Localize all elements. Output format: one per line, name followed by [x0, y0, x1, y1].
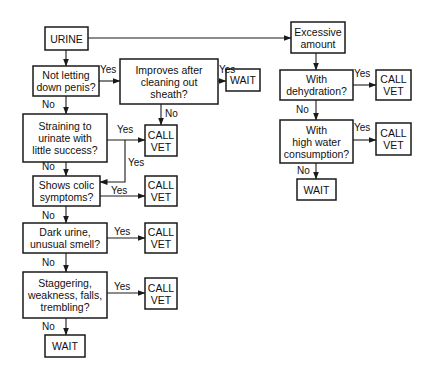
node-text: CALL: [148, 179, 174, 191]
edge-label-yes: Yes: [354, 68, 370, 79]
node-text: VET: [383, 85, 404, 97]
node-dark-urine: Dark urine,unusual smell?: [23, 223, 107, 253]
node-text: VET: [383, 139, 404, 151]
node-text: With: [306, 124, 327, 136]
node-text: Not letting: [42, 69, 89, 81]
node-text: trembling?: [40, 301, 89, 313]
edge-label-yes: Yes: [114, 281, 130, 292]
node-text: weakness, falls,: [27, 289, 102, 301]
edge-label-no: No: [42, 161, 55, 172]
edge-label-yes: Yes: [219, 64, 235, 75]
node-text: high water: [292, 136, 341, 148]
node-colic: Shows colicsymptoms?: [33, 176, 100, 206]
node-text: WAIT: [230, 74, 256, 86]
edge-label-yes: Yes: [354, 122, 370, 133]
node-call-vet-r2: CALLVET: [376, 123, 411, 155]
urine-flowchart: URINENot lettingdown penis?Improves afte…: [0, 0, 435, 373]
node-text: CALL: [380, 73, 406, 85]
node-urine: URINE: [45, 27, 88, 50]
node-call-vet-4: CALLVET: [145, 278, 177, 309]
edge-label-yes: Yes: [128, 157, 144, 168]
node-text: Straining to: [38, 120, 91, 132]
node-text: VET: [151, 141, 172, 153]
node-not-letting-down: Not lettingdown penis?: [33, 66, 99, 96]
node-text: Shows colic: [39, 179, 94, 191]
node-text: Excessive: [294, 26, 341, 38]
node-text: urinate with: [38, 132, 92, 144]
node-dehydration: Withdehydration?: [280, 70, 353, 100]
node-text: unusual smell?: [30, 238, 100, 250]
node-call-vet-3: CALLVET: [145, 223, 177, 253]
node-text: symptoms?: [40, 191, 94, 203]
node-straining: Straining tourinate withlittle success?: [23, 114, 107, 162]
node-text: Dark urine,: [39, 226, 90, 238]
edge-label-no: No: [165, 108, 178, 119]
node-call-vet-1: CALLVET: [145, 125, 177, 156]
node-wait-bottom: WAIT: [45, 335, 85, 357]
node-text: WAIT: [304, 184, 330, 196]
node-high-water: Withhigh waterconsumption?: [280, 120, 353, 163]
node-improves-after: Improves aftercleaning outsheath?: [120, 59, 218, 104]
node-text: URINE: [50, 33, 83, 45]
node-text: VET: [151, 191, 172, 203]
edge-label-no: No: [297, 165, 310, 176]
node-text: down penis?: [37, 81, 96, 93]
node-text: Staggering,: [38, 277, 92, 289]
edge-label-yes: Yes: [114, 226, 130, 237]
node-staggering: Staggering,weakness, falls,trembling?: [23, 272, 107, 318]
node-text: CALL: [148, 129, 174, 141]
node-text: VET: [151, 294, 172, 306]
edge-label-no: No: [42, 257, 55, 268]
edge-label-no: No: [296, 104, 309, 115]
node-text: CALL: [148, 226, 174, 238]
node-text: sheath?: [150, 88, 188, 100]
node-text: dehydration?: [286, 85, 347, 97]
edge-label-yes: Yes: [117, 124, 133, 135]
node-text: amount: [300, 38, 335, 50]
node-text: little success?: [32, 144, 98, 156]
edge-label-no: No: [42, 210, 55, 221]
node-text: cleaning out: [141, 76, 198, 88]
edge-label-yes: Yes: [100, 64, 116, 75]
node-text: WAIT: [52, 340, 78, 352]
node-text: VET: [151, 238, 172, 250]
node-text: CALL: [380, 127, 406, 139]
edge-label-no: No: [42, 321, 55, 332]
node-text: CALL: [148, 282, 174, 294]
node-wait-right: WAIT: [297, 179, 336, 200]
node-call-vet-r1: CALLVET: [376, 70, 411, 100]
edge-label-yes: Yes: [111, 185, 127, 196]
node-call-vet-2: CALLVET: [145, 176, 177, 206]
node-excessive: Excessiveamount: [291, 22, 345, 53]
node-text: With: [306, 73, 327, 85]
node-text: Improves after: [135, 64, 203, 76]
node-text: consumption?: [284, 148, 350, 160]
edge-label-no: No: [42, 99, 55, 110]
